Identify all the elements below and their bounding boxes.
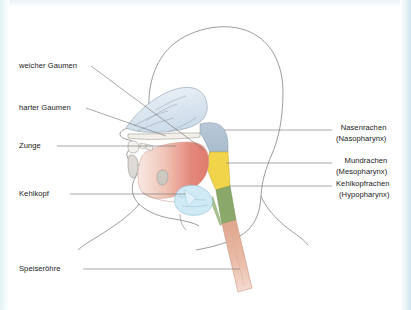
label-harter-gaumen: harter Gaumen (19, 103, 71, 114)
label-mundrachen-title: Mundrachen (345, 156, 388, 165)
anatomy-illustration (0, 0, 411, 310)
label-nasenrachen-latin: (Nasopharynx) (336, 134, 386, 145)
label-kehlkopf: Kehlkopf (19, 189, 49, 200)
label-weicher-gaumen: weicher Gaumen (19, 61, 77, 72)
label-speiseroehre: Speiseröhre (19, 264, 61, 275)
label-nasenrachen-title: Nasenrachen (341, 123, 387, 132)
label-kehlkopfrachen-title: Kehlkopfrachen (336, 179, 389, 188)
label-mundrachen: Mundrachen (Mesopharynx) (336, 156, 387, 177)
label-zunge: Zunge (19, 141, 41, 152)
label-nasenrachen: Nasenrachen (Nasopharynx) (336, 123, 386, 144)
figure-root: weicher Gaumen harter Gaumen Zunge Kehlk… (0, 0, 411, 310)
label-kehlkopfrachen-latin: (Hypopharynx) (336, 190, 389, 201)
label-kehlkopfrachen: Kehlkopfrachen (Hypopharynx) (336, 179, 389, 200)
label-mundrachen-latin: (Mesopharynx) (336, 167, 387, 178)
